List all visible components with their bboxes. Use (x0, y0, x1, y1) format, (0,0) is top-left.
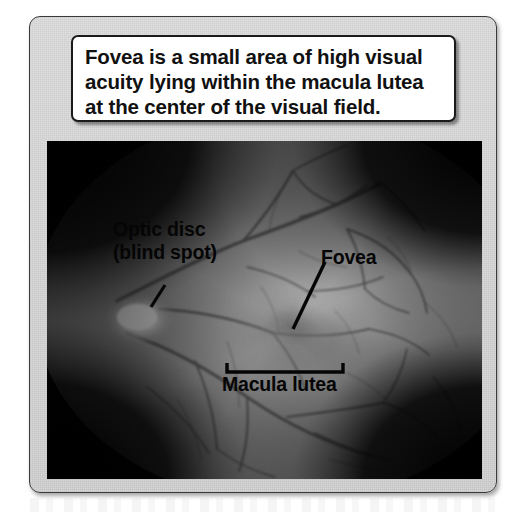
figure-caption-box: Fovea is a small area of high visual acu… (71, 35, 456, 122)
figure-caption-text: Fovea is a small area of high visual acu… (85, 44, 444, 119)
figure-panel: Fovea is a small area of high visual acu… (29, 16, 497, 493)
page-texture-band (30, 498, 500, 512)
annotation-label-fovea: Fovea (321, 246, 376, 268)
annotation-label-optic-disc: Optic disc (blind spot) (113, 218, 217, 263)
fundus-image-canvas (47, 141, 482, 479)
retinal-fundus-photograph: Optic disc (blind spot) Fovea Macula lut… (47, 141, 482, 479)
annotation-label-macula-lutea: Macula lutea (222, 373, 337, 395)
